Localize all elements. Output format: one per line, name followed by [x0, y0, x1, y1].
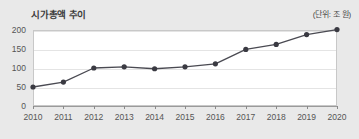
data-point-2012[interactable]: [91, 65, 96, 70]
data-point-2020[interactable]: [334, 27, 339, 32]
chart-title: 시가총액 추이: [31, 7, 86, 21]
chart-header: 시가총액 추이 (단위: 조 원): [0, 7, 359, 23]
x-tick-mark-2015: [185, 106, 186, 109]
data-point-2014[interactable]: [152, 66, 157, 71]
series-line: [33, 30, 337, 87]
x-tick-label-2010: 2010: [24, 112, 43, 122]
y-tick-label-50: 50: [17, 82, 26, 92]
data-point-2010[interactable]: [30, 84, 35, 89]
x-tick-mark-2017: [246, 106, 247, 109]
y-tick-label-150: 150: [12, 44, 26, 54]
data-point-2017[interactable]: [243, 47, 248, 52]
x-tick-label-2018: 2018: [267, 112, 286, 122]
chart-unit-note: (단위: 조 원): [313, 8, 351, 19]
data-point-2019[interactable]: [304, 32, 309, 37]
x-tick-label-2019: 2019: [297, 112, 316, 122]
data-point-2011[interactable]: [61, 79, 66, 84]
x-tick-mark-2013: [124, 106, 125, 109]
data-point-2013[interactable]: [122, 64, 127, 69]
x-tick-label-2013: 2013: [115, 112, 134, 122]
data-series-layer: [33, 30, 337, 106]
x-axis: 2010201120122013201420152016201720182019…: [33, 110, 337, 124]
x-tick-label-2017: 2017: [236, 112, 255, 122]
x-tick-label-2014: 2014: [145, 112, 164, 122]
x-tick-mark-2016: [215, 106, 216, 109]
x-tick-mark-2019: [307, 106, 308, 109]
x-tick-label-2015: 2015: [176, 112, 195, 122]
x-tick-mark-2020: [337, 106, 338, 109]
y-tick-label-100: 100: [12, 63, 26, 73]
data-point-2018[interactable]: [274, 42, 279, 47]
data-point-2015[interactable]: [182, 64, 187, 69]
x-tick-mark-2012: [94, 106, 95, 109]
data-point-2016[interactable]: [213, 61, 218, 66]
x-tick-label-2016: 2016: [206, 112, 225, 122]
x-tick-label-2011: 2011: [54, 112, 72, 122]
market-cap-line-chart: 시가총액 추이 (단위: 조 원) 050100150200 201020112…: [0, 0, 359, 139]
x-tick-mark-2018: [276, 106, 277, 109]
y-tick-label-200: 200: [12, 25, 26, 35]
x-tick-label-2012: 2012: [84, 112, 103, 122]
x-tick-label-2020: 2020: [328, 112, 347, 122]
x-tick-mark-2011: [63, 106, 64, 109]
x-tick-mark-2010: [33, 106, 34, 109]
y-axis: 050100150200: [0, 30, 30, 106]
y-tick-label-0: 0: [21, 101, 26, 111]
x-tick-mark-2014: [155, 106, 156, 109]
